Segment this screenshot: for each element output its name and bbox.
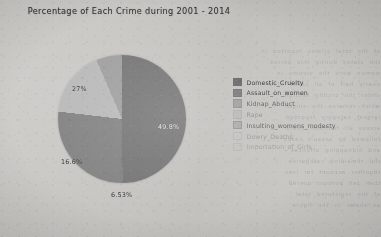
chart-title: Percentage of Each Crime during 2001 - 2…: [0, 6, 258, 16]
legend-color-swatch: [233, 132, 242, 141]
legend-item[interactable]: Domestic_Cruelty: [233, 77, 378, 87]
pie-slice-label: 49.8%: [158, 123, 179, 131]
legend-item-label: Domestic_Cruelty: [247, 79, 304, 86]
legend-color-swatch: [233, 110, 242, 119]
legend-item[interactable]: Importation_of_Girls: [233, 142, 378, 152]
legend-color-swatch: [233, 99, 242, 108]
pie-slice-label: 6.53%: [111, 191, 132, 199]
legend-item[interactable]: Assault_on_women: [233, 88, 378, 98]
pie-chart: 49.8%27%16.6%6.53%: [58, 55, 186, 183]
legend-item-label: Importation_of_Girls: [247, 143, 312, 150]
legend-item-label: Assault_on_women: [247, 89, 308, 96]
legend-item[interactable]: Kidnap_Abduct: [233, 99, 378, 109]
legend-item[interactable]: Insulting_womens_modesty: [233, 120, 378, 130]
legend-color-swatch: [233, 89, 242, 98]
legend-color-swatch: [233, 143, 242, 152]
pie-slice-label: 16.6%: [61, 158, 82, 166]
legend-item[interactable]: Rape: [233, 109, 378, 119]
legend-item[interactable]: Dowry_Deaths: [233, 131, 378, 141]
legend-color-swatch: [233, 78, 242, 87]
legend-item-label: Kidnap_Abduct: [247, 100, 295, 107]
legend-color-swatch: [233, 121, 242, 130]
legend-item-label: Insulting_womens_modesty: [247, 122, 336, 129]
legend-item-label: Dowry_Deaths: [247, 133, 294, 140]
pie-slice-label: 27%: [72, 85, 87, 93]
chart-legend: Domestic_CrueltyAssault_on_womenKidnap_A…: [233, 77, 378, 152]
legend-item-label: Rape: [247, 111, 263, 118]
